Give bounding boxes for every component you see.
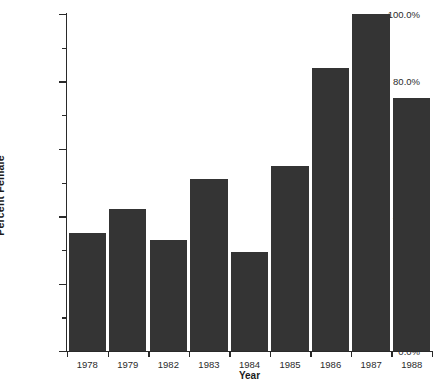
y-tick-major bbox=[59, 216, 67, 217]
bar bbox=[271, 166, 308, 351]
y-tick-label: 80.0% bbox=[393, 76, 420, 87]
bar bbox=[352, 14, 389, 351]
bar-chart: Percent Female 0.0%20.0%40.0%60.0%80.0%1… bbox=[0, 0, 445, 391]
y-tick-major bbox=[59, 149, 67, 150]
y-tick-minor bbox=[62, 115, 67, 116]
bar bbox=[109, 209, 146, 351]
bar bbox=[190, 179, 227, 351]
y-tick-major bbox=[59, 81, 67, 82]
x-tick-label: 1985 bbox=[279, 359, 300, 370]
bar bbox=[393, 98, 430, 351]
y-tick-minor bbox=[62, 48, 67, 49]
x-tick bbox=[351, 351, 352, 357]
y-tick-label: 100.0% bbox=[388, 9, 420, 20]
y-tick-minor bbox=[62, 317, 67, 318]
x-tick-label: 1986 bbox=[320, 359, 341, 370]
bar bbox=[312, 68, 349, 351]
x-tick bbox=[67, 351, 68, 357]
x-tick bbox=[391, 351, 392, 357]
x-tick bbox=[108, 351, 109, 357]
x-tick bbox=[189, 351, 190, 357]
plot-area: 0.0%20.0%40.0%60.0%80.0%100.0%1978197919… bbox=[67, 14, 432, 351]
y-tick-minor bbox=[62, 250, 67, 251]
x-tick-label: 1983 bbox=[198, 359, 219, 370]
bar bbox=[231, 252, 268, 351]
x-tick-label: 1988 bbox=[401, 359, 422, 370]
x-tick-label: 1979 bbox=[117, 359, 138, 370]
x-tick bbox=[432, 351, 433, 357]
x-tick bbox=[270, 351, 271, 357]
x-tick-label: 1978 bbox=[77, 359, 98, 370]
y-tick-major bbox=[59, 351, 67, 352]
bar bbox=[69, 233, 106, 351]
y-tick-major bbox=[59, 14, 67, 15]
bar bbox=[150, 240, 187, 351]
y-tick-major bbox=[59, 284, 67, 285]
x-tick bbox=[148, 351, 149, 357]
x-tick-label: 1987 bbox=[361, 359, 382, 370]
x-tick bbox=[229, 351, 230, 357]
x-tick-label: 1982 bbox=[158, 359, 179, 370]
y-tick-minor bbox=[62, 183, 67, 184]
x-tick bbox=[310, 351, 311, 357]
x-axis-title: Year bbox=[67, 370, 432, 381]
x-tick-label: 1984 bbox=[239, 359, 260, 370]
